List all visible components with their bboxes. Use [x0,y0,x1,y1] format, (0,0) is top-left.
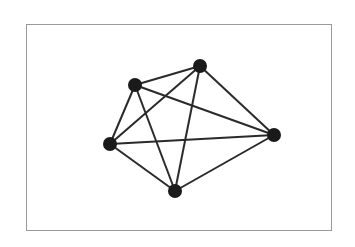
edge-n1-n3 [135,85,274,135]
node-n4 [168,184,182,198]
node-n3 [267,128,281,142]
edge-n2-n3 [200,66,274,135]
graph-canvas [0,0,355,247]
node-n5 [103,137,117,151]
edge-n1-n4 [135,85,175,191]
edge-n1-n5 [110,85,135,144]
edge-n3-n4 [175,135,274,191]
edge-n3-n5 [110,135,274,144]
node-n1 [128,78,142,92]
node-n2 [193,59,207,73]
